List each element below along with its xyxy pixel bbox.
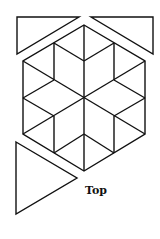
top-right-triangle — [91, 17, 153, 54]
top-label: Top — [85, 184, 107, 197]
quilt-star-diagram — [0, 0, 160, 239]
bottom-left-triangle — [16, 142, 77, 214]
hexagon-star — [23, 25, 145, 171]
top-left-triangle — [17, 17, 79, 54]
